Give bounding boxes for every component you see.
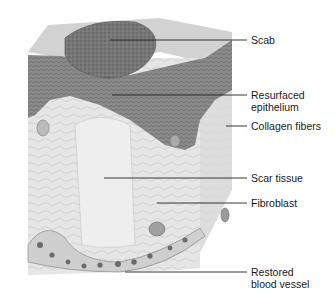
scar-tissue-region	[75, 118, 135, 248]
label-scab: Scab	[251, 34, 275, 46]
label-epithelium-line1: Resurfaced	[251, 89, 305, 101]
label-collagen-text: Collagen fibers	[251, 120, 321, 132]
label-collagen-fibers: Collagen fibers	[251, 120, 321, 132]
label-epithelium-line2: epithelium	[251, 101, 305, 113]
label-restored-blood-vessel: Restored blood vessel	[251, 266, 309, 290]
label-fibroblast: Fibroblast	[251, 197, 297, 209]
label-scar-tissue-text: Scar tissue	[251, 172, 303, 184]
label-blood-vessel-line2: blood vessel	[251, 278, 309, 290]
label-scab-text: Scab	[251, 34, 275, 46]
label-blood-vessel-line1: Restored	[251, 266, 309, 278]
label-fibroblast-text: Fibroblast	[251, 197, 297, 209]
label-scar-tissue: Scar tissue	[251, 172, 303, 184]
skin-cross-section-illustration	[0, 0, 335, 302]
label-resurfaced-epithelium: Resurfaced epithelium	[251, 89, 305, 113]
